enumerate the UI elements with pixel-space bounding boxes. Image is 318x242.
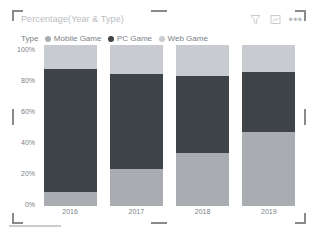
bar-segment-pc-game[interactable] <box>176 76 229 153</box>
legend-title: Type <box>21 34 38 43</box>
y-axis-tick: 60% <box>21 108 35 115</box>
legend-label-pc-game: PC Game <box>117 34 152 43</box>
x-axis-tick: 2019 <box>236 208 302 222</box>
bar-segment-pc-game[interactable] <box>44 69 97 191</box>
bar-group-2018 <box>170 45 236 206</box>
stacked-bar-series <box>37 45 302 206</box>
bar-segment-web-game[interactable] <box>44 45 97 69</box>
stacked-bar <box>110 45 163 206</box>
bar-group-2016 <box>37 45 103 206</box>
legend-label-web-game: Web Game <box>168 34 208 43</box>
bar-segment-mobile-game[interactable] <box>176 153 229 206</box>
legend-item-web-game[interactable]: Web Game <box>159 34 208 43</box>
visual-header-actions: ••• <box>249 13 302 26</box>
bar-segment-mobile-game[interactable] <box>110 169 163 206</box>
legend-swatch-mobile-game <box>45 36 51 42</box>
bar-group-2019 <box>236 45 302 206</box>
legend-swatch-pc-game <box>108 36 114 42</box>
chart-legend: Type Mobile Game PC Game Web Game <box>21 32 215 45</box>
filter-icon[interactable] <box>249 13 262 26</box>
x-axis-tick: 2017 <box>103 208 169 222</box>
y-axis-tick: 80% <box>21 77 35 84</box>
y-axis-tick: 0% <box>25 201 35 208</box>
y-axis-tick: 100% <box>17 46 35 53</box>
page-title: Percentage(Year & Type) <box>21 14 124 24</box>
power-bi-visual-container[interactable]: Percentage(Year & Type) ••• Type Mobile <box>13 11 305 223</box>
chart-plot-area[interactable]: 100% 80% 60% 40% 20% 0% <box>13 45 305 223</box>
stacked-bar <box>242 45 295 206</box>
y-axis-tick: 20% <box>21 170 35 177</box>
legend-label-mobile-game: Mobile Game <box>54 34 102 43</box>
x-axis-tick: 2016 <box>37 208 103 222</box>
bar-segment-web-game[interactable] <box>110 45 163 74</box>
bar-segment-pc-game[interactable] <box>242 72 295 132</box>
more-options-icon[interactable]: ••• <box>289 13 302 26</box>
legend-item-pc-game[interactable]: PC Game <box>108 34 152 43</box>
y-axis-tick: 40% <box>21 139 35 146</box>
bottom-divider <box>9 225 61 227</box>
bar-segment-mobile-game[interactable] <box>242 132 295 206</box>
x-axis: 2016 2017 2018 2019 <box>37 208 302 222</box>
focus-mode-icon[interactable] <box>269 13 282 26</box>
bar-segment-pc-game[interactable] <box>110 74 163 169</box>
visual-header: Percentage(Year & Type) ••• <box>13 11 305 31</box>
bar-segment-web-game[interactable] <box>242 45 295 72</box>
legend-swatch-web-game <box>159 36 165 42</box>
y-axis: 100% 80% 60% 40% 20% 0% <box>14 45 36 206</box>
more-options-glyph: ••• <box>288 16 302 24</box>
stacked-bar <box>44 45 97 206</box>
bottom-status-strip <box>0 224 318 242</box>
bar-group-2017 <box>103 45 169 206</box>
bar-segment-mobile-game[interactable] <box>44 192 97 206</box>
x-axis-tick: 2018 <box>170 208 236 222</box>
stacked-bar <box>176 45 229 206</box>
legend-item-mobile-game[interactable]: Mobile Game <box>45 34 101 43</box>
bar-segment-web-game[interactable] <box>176 45 229 76</box>
